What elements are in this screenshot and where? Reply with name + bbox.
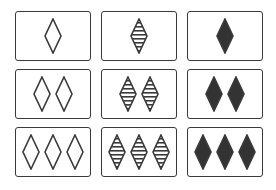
diamond-open-icon [22, 134, 40, 170]
diamond-open-icon [66, 134, 84, 170]
diamond-striped-icon [119, 76, 137, 112]
card-1-striped [101, 11, 177, 61]
card-2-striped [101, 69, 177, 119]
diamond-striped-icon [141, 76, 159, 112]
card-grid [15, 11, 263, 177]
card-2-solid [187, 69, 263, 119]
diamond-solid-icon [205, 76, 223, 112]
card-2-open [15, 69, 91, 119]
diamond-open-icon [55, 76, 73, 112]
diamond-solid-icon [216, 18, 234, 54]
card-1-open [15, 11, 91, 61]
diamond-open-icon [44, 134, 62, 170]
card-3-solid [187, 127, 263, 177]
diamond-open-icon [33, 76, 51, 112]
diamond-striped-icon [152, 134, 170, 170]
card-3-striped [101, 127, 177, 177]
card-1-solid [187, 11, 263, 61]
diamond-solid-icon [238, 134, 256, 170]
card-3-open [15, 127, 91, 177]
diamond-solid-icon [216, 134, 234, 170]
diamond-striped-icon [130, 18, 148, 54]
diamond-solid-icon [194, 134, 212, 170]
diamond-solid-icon [227, 76, 245, 112]
diamond-striped-icon [130, 134, 148, 170]
diamond-open-icon [44, 18, 62, 54]
diamond-striped-icon [108, 134, 126, 170]
